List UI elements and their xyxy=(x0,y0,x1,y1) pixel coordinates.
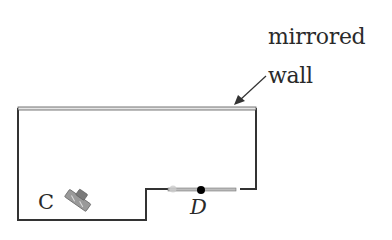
door-point-label: D xyxy=(190,195,207,219)
door-point-d xyxy=(197,186,205,194)
camera-icon xyxy=(64,184,94,211)
mirrored-wall-label: mirrored xyxy=(268,24,365,49)
mirror-pointer-arrow xyxy=(240,76,266,100)
door-ghost-point xyxy=(170,186,177,193)
camera-point-label: C xyxy=(38,190,54,214)
mirrored-wall-label-line2: wall xyxy=(268,63,313,88)
mirrored-wall xyxy=(18,107,256,110)
